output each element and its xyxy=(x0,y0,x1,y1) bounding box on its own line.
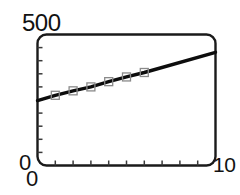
plot-area xyxy=(0,0,240,195)
chart-container: 500 0 0 10 xyxy=(0,0,240,195)
data-line-series xyxy=(38,52,216,100)
plot-frame xyxy=(38,35,216,166)
